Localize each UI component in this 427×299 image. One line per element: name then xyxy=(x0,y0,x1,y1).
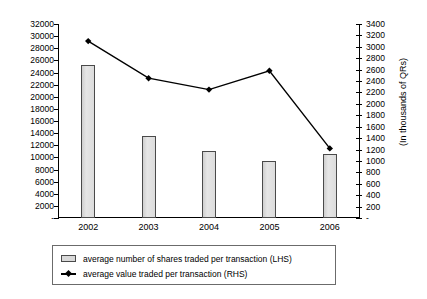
left-axis-tick-label: 30000 xyxy=(30,32,54,41)
chart-container: -200040006000800010000120001400016000180… xyxy=(0,0,427,299)
legend-label-value: average value traded per transaction (RH… xyxy=(83,269,247,279)
x-axis-label-2003: 2003 xyxy=(129,222,169,233)
right-axis-tick-label: 2400 xyxy=(366,77,385,86)
right-axis-tick-label: 1200 xyxy=(366,146,385,155)
left-axis-tick-label: 2000 xyxy=(35,202,54,211)
left-axis-tick-label: 18000 xyxy=(30,105,54,114)
right-axis-tick-label: 800 xyxy=(366,168,380,177)
right-axis-tick-label: 2800 xyxy=(366,54,385,63)
left-axis-tick-label: 20000 xyxy=(30,93,54,102)
left-axis-tick-label: 8000 xyxy=(35,166,54,175)
legend-label-shares: average number of shares traded per tran… xyxy=(83,254,292,264)
line-diamond-icon xyxy=(61,269,76,278)
right-axis-tick-label: 1600 xyxy=(366,123,385,132)
plot-area xyxy=(58,24,360,218)
right-axis-tick-label: 600 xyxy=(366,180,380,189)
line-series xyxy=(58,24,360,218)
left-axis-tick-label: 28000 xyxy=(30,44,54,53)
legend-item-shares: average number of shares traded per tran… xyxy=(61,251,327,266)
right-axis-tick-label: 2600 xyxy=(366,66,385,75)
left-axis-tick-label: 16000 xyxy=(30,117,54,126)
x-axis-label-2002: 2002 xyxy=(68,222,108,233)
x-axis-category-labels: 20022003200420052006 xyxy=(58,222,360,238)
left-axis-tick-label: 10000 xyxy=(30,153,54,162)
line-marker-2002 xyxy=(85,38,91,44)
right-axis-tick-label: - xyxy=(366,214,369,223)
left-axis-tick-label: 12000 xyxy=(30,141,54,150)
left-axis-tick-label: 24000 xyxy=(30,69,54,78)
x-axis-label-2004: 2004 xyxy=(189,222,229,233)
legend-item-value: average value traded per transaction (RH… xyxy=(61,266,327,281)
left-axis-tick-labels: -200040006000800010000120001400016000180… xyxy=(0,24,54,218)
x-axis-label-2005: 2005 xyxy=(249,222,289,233)
right-axis-title: (In thousands of QRs) xyxy=(398,58,408,146)
right-axis-tick-label: 1400 xyxy=(366,134,385,143)
right-axis-tick xyxy=(356,218,362,219)
x-axis-label-2006: 2006 xyxy=(310,222,350,233)
right-axis-tick-label: 1800 xyxy=(366,111,385,120)
line-marker-2004 xyxy=(206,86,212,92)
left-axis-tick-label: 22000 xyxy=(30,81,54,90)
right-axis-tick-label: 1000 xyxy=(366,157,385,166)
left-axis-tick-label: 26000 xyxy=(30,56,54,65)
left-axis-tick-label: 6000 xyxy=(35,178,54,187)
bar-swatch-icon xyxy=(61,255,76,262)
left-axis-tick xyxy=(54,218,59,219)
right-axis-tick-label: 200 xyxy=(366,203,380,212)
left-axis-tick-label: 32000 xyxy=(30,20,54,29)
line-path xyxy=(88,41,330,148)
right-axis-tick-label: 2200 xyxy=(366,88,385,97)
right-axis-tick-label: 3400 xyxy=(366,20,385,29)
left-axis-tick-label: 4000 xyxy=(35,190,54,199)
right-axis-tick-label: 3200 xyxy=(366,31,385,40)
right-axis-tick-labels: -200400600800100012001400160018002000220… xyxy=(366,24,396,218)
left-axis-tick-label: 14000 xyxy=(30,129,54,138)
right-axis-tick-label: 400 xyxy=(366,191,380,200)
right-axis-tick-label: 3000 xyxy=(366,43,385,52)
chart-legend: average number of shares traded per tran… xyxy=(52,245,336,285)
line-marker-2003 xyxy=(145,75,151,81)
right-axis-tick-label: 2000 xyxy=(366,100,385,109)
